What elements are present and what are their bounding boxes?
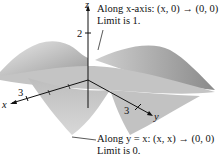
annotation-x-axis-line1: Along x-axis: (x, 0) → (0, 0) bbox=[97, 3, 218, 14]
x-axis-label: x bbox=[2, 99, 7, 110]
annotation-x-axis-line2: Limit is 1. bbox=[97, 15, 140, 26]
y-tick-label: 3 bbox=[124, 105, 129, 116]
annotation-y-eq-x-line2: Limit is 0. bbox=[97, 145, 140, 156]
annotation-y-eq-x-line1: Along y = x: (x, x) → (0, 0) bbox=[97, 133, 214, 144]
z-tick-label: 2 bbox=[77, 28, 82, 39]
y-axis-label: y bbox=[154, 111, 159, 122]
x-tick-label: 3 bbox=[18, 87, 23, 98]
z-axis-label: z bbox=[85, 0, 89, 10]
